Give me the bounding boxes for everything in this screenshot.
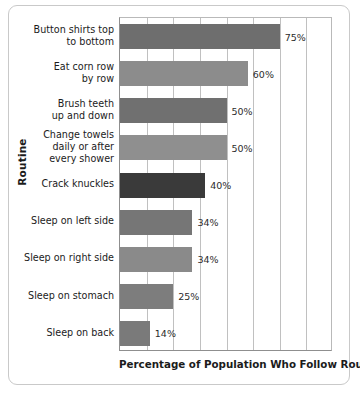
bar-row: 75% — [120, 24, 331, 49]
category-label-line: Change towels — [0, 129, 114, 141]
bar-row: 50% — [120, 98, 331, 123]
bar[interactable]: 60% — [120, 61, 248, 86]
category-label: Button shirts topto bottom — [0, 24, 114, 47]
category-label-line: up and down — [0, 110, 114, 122]
bar[interactable]: 34% — [120, 247, 192, 272]
bar-value-label: 34% — [197, 217, 218, 228]
category-label: Sleep on back — [0, 327, 114, 339]
bar-row: 50% — [120, 135, 331, 160]
bar-value-label: 14% — [155, 328, 176, 339]
bar-value-label: 50% — [232, 105, 253, 116]
bar-value-label: 60% — [253, 68, 274, 79]
category-label-line: Sleep on stomach — [0, 290, 114, 302]
bar-value-label: 40% — [210, 180, 231, 191]
category-label-line: daily or after — [0, 141, 114, 153]
category-label: Sleep on stomach — [0, 290, 114, 302]
category-label-line: by row — [0, 73, 114, 85]
category-label: Change towelsdaily or afterevery shower — [0, 129, 114, 164]
category-label-line: Sleep on right side — [0, 252, 114, 264]
bar-row: 25% — [120, 284, 331, 309]
bar-value-label: 34% — [197, 254, 218, 265]
bar[interactable]: 75% — [120, 24, 280, 49]
bar-value-label: 25% — [178, 291, 199, 302]
category-label-line: Sleep on left side — [0, 215, 114, 227]
bar[interactable]: 14% — [120, 321, 150, 346]
category-label-line: Button shirts top — [0, 24, 114, 36]
category-label-line: Eat corn row — [0, 61, 114, 73]
chart-figure: Routine 75%60%50%50%40%34%34%25%14% Perc… — [8, 5, 350, 385]
category-label-line: Crack knuckles — [0, 178, 114, 190]
category-label: Crack knuckles — [0, 178, 114, 190]
bar[interactable]: 50% — [120, 98, 227, 123]
plot-area: 75%60%50%50%40%34%34%25%14% — [119, 17, 332, 351]
bar-value-label: 50% — [232, 142, 253, 153]
category-label-line: every shower — [0, 153, 114, 165]
bar-row: 40% — [120, 173, 331, 198]
bar[interactable]: 40% — [120, 173, 205, 198]
category-label-line: Sleep on back — [0, 327, 114, 339]
category-label: Sleep on left side — [0, 215, 114, 227]
bar[interactable]: 25% — [120, 284, 173, 309]
category-label: Sleep on right side — [0, 252, 114, 264]
category-label: Brush teethup and down — [0, 98, 114, 121]
bar[interactable]: 34% — [120, 210, 192, 235]
category-label: Eat corn rowby row — [0, 61, 114, 84]
bar-row: 60% — [120, 61, 331, 86]
bar-value-label: 75% — [285, 31, 306, 42]
category-label-line: Brush teeth — [0, 98, 114, 110]
bar[interactable]: 50% — [120, 135, 227, 160]
bar-row: 34% — [120, 247, 331, 272]
x-axis-title: Percentage of Population Who Follow Rout… — [119, 358, 332, 370]
category-label-line: to bottom — [0, 36, 114, 48]
bar-row: 14% — [120, 321, 331, 346]
bar-row: 34% — [120, 210, 331, 235]
